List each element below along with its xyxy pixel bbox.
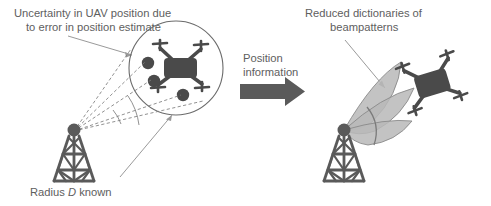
position-info-label-line2: information <box>243 66 298 78</box>
position-info-label-line1: Position <box>243 52 283 64</box>
diagram-canvas: Uncertainty in UAV position due to error… <box>0 0 491 206</box>
radius-label-prefix: Radius <box>30 186 68 198</box>
drone-body-left <box>164 58 197 78</box>
uncertainty-label-line2: to error in position estimate <box>26 21 161 33</box>
radius-label: Radius D known <box>30 186 111 198</box>
radius-label-symbol: D <box>68 186 76 198</box>
uncertainty-label-line1: Uncertainty in UAV position due <box>14 7 171 19</box>
reduced-label-line1: Reduced dictionaries of <box>305 7 423 19</box>
tower-top-knob-left <box>68 124 81 137</box>
tower-top-knob-right <box>338 124 351 137</box>
uncertainty-dot <box>177 89 189 101</box>
reduced-label-line2: beampatterns <box>330 21 399 33</box>
radius-label-suffix: known <box>76 186 111 198</box>
